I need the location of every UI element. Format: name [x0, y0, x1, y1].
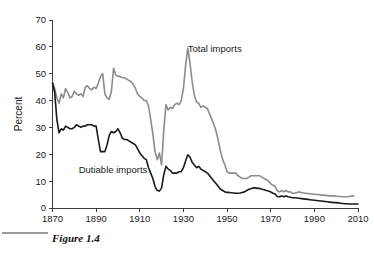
y-tick-label-10: 10 [35, 176, 46, 187]
x-tick-label-1870: 1870 [42, 213, 63, 224]
x-tick-label-1990: 1990 [304, 213, 325, 224]
y-tick-label-30: 30 [35, 122, 46, 133]
y-tick-label-50: 50 [35, 68, 46, 79]
import-share-line-chart: 010203040506070 187018901910193019501970… [0, 0, 374, 253]
y-axis-tick-labels: 010203040506070 [35, 14, 46, 213]
series-annotation-total-imports: Total imports [188, 43, 242, 54]
series-annotation-dutiable-imports: Dutiable imports [79, 164, 148, 175]
y-tick-label-70: 70 [35, 14, 46, 25]
figure-container: 010203040506070 187018901910193019501970… [0, 0, 374, 253]
x-tick-label-2010: 2010 [347, 213, 368, 224]
figure-caption: Figure 1.4 [51, 232, 100, 244]
x-tick-label-1950: 1950 [217, 213, 238, 224]
x-axis-tick-labels: 18701890191019301950197019902010 [42, 213, 369, 224]
y-tick-label-20: 20 [35, 149, 46, 160]
data-series-group [53, 48, 359, 204]
y-tick-label-60: 60 [35, 41, 46, 52]
y-tick-label-0: 0 [41, 202, 46, 213]
series-line-dutiable-imports [53, 83, 359, 204]
y-axis-title: Percent [13, 97, 24, 132]
x-tick-label-1910: 1910 [129, 213, 150, 224]
x-tick-label-1890: 1890 [86, 213, 107, 224]
y-tick-label-40: 40 [35, 95, 46, 106]
x-tick-label-1930: 1930 [173, 213, 194, 224]
x-tick-label-1970: 1970 [260, 213, 281, 224]
